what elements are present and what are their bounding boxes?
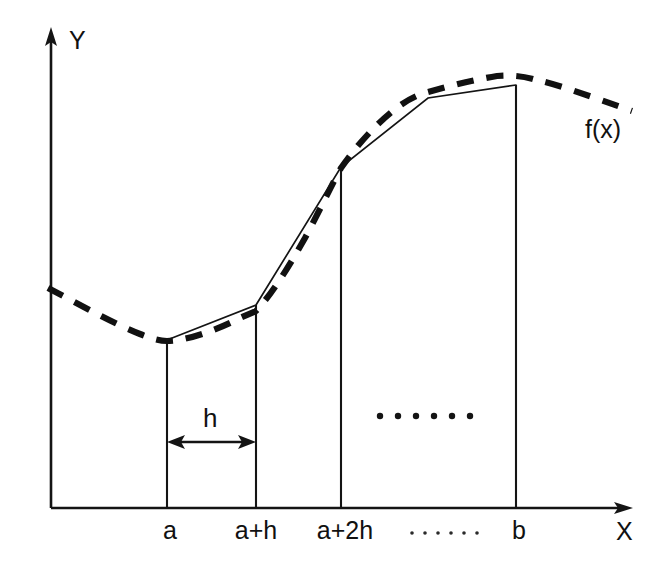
x-tick-label-a-plus-2h: a+2h (317, 518, 373, 543)
interval-width-label: h (203, 405, 217, 431)
trapezoidal-rule-figure: Y X f(x) h a a+h a+2h b (0, 0, 663, 579)
figure-canvas (0, 0, 663, 579)
x-tick-label-b: b (512, 518, 526, 543)
x-tick-label-a-plus-h: a+h (235, 518, 277, 543)
y-axis-label: Y (69, 28, 86, 53)
x-axis-label: X (616, 519, 633, 544)
x-tick-label-a: a (163, 518, 177, 543)
omitted-subintervals-ellipsis (377, 413, 473, 419)
omitted-ticks-ellipsis (410, 531, 479, 535)
function-curve-label: f(x) (585, 117, 621, 142)
